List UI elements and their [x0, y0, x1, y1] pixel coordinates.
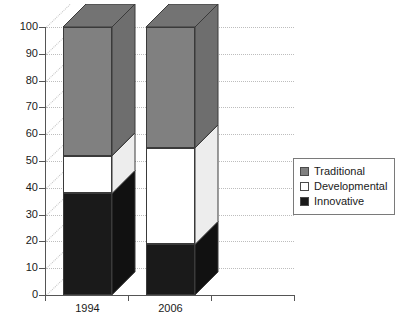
y-tick-mark [39, 54, 45, 55]
y-axis-line [45, 27, 46, 295]
y-tick-label-wrap: 10 [0, 262, 38, 273]
y-tick-label-wrap: 20 [0, 235, 38, 246]
y-tick-mark [39, 268, 45, 269]
y-tick-mark [39, 27, 45, 28]
x-tick-label-1994: 1994 [53, 303, 123, 314]
bar-segment-2006-traditional [146, 27, 195, 148]
y-tick-label: 40 [4, 182, 38, 193]
x-tick-mark [294, 295, 295, 301]
y-tick-mark [39, 81, 45, 82]
legend: Traditional Developmental Innovative [293, 158, 395, 215]
legend-label-innovative: Innovative [314, 196, 364, 207]
x-tick-label-2006: 2006 [136, 303, 206, 314]
bar-segment-2006-developmental [146, 148, 195, 244]
y-tick-label-wrap: 0 [0, 289, 38, 300]
bar-segment-1994-traditional [63, 27, 112, 156]
y-tick-mark [39, 161, 45, 162]
chart-screenshot: 0102030405060708090100 19942006 Traditio… [0, 0, 395, 335]
y-tick-label-wrap: 30 [0, 209, 38, 220]
legend-swatch-traditional [300, 167, 309, 176]
bar-segment-1994-innovative [63, 193, 112, 295]
y-tick-mark [39, 215, 45, 216]
y-tick-label: 20 [4, 235, 38, 246]
legend-label-traditional: Traditional [314, 166, 365, 177]
y-tick-mark [39, 107, 45, 108]
legend-label-developmental: Developmental [314, 181, 387, 192]
bar-segment-1994-developmental [63, 156, 112, 194]
y-tick-mark [39, 188, 45, 189]
legend-item-traditional: Traditional [300, 164, 387, 179]
y-tick-label: 90 [4, 48, 38, 59]
y-tick-label-wrap: 100 [0, 21, 38, 32]
y-tick-label: 80 [4, 75, 38, 86]
y-tick-label: 10 [4, 262, 38, 273]
x-tick-mark [128, 295, 129, 301]
y-tick-label-wrap: 40 [0, 182, 38, 193]
plot-area: 0102030405060708090100 19942006 Traditio… [0, 0, 395, 335]
y-tick-mark [39, 134, 45, 135]
y-tick-label-wrap: 60 [0, 128, 38, 139]
y-tick-label: 0 [4, 289, 38, 300]
y-tick-label: 30 [4, 209, 38, 220]
y-tick-mark [39, 241, 45, 242]
x-axis-line [45, 295, 294, 296]
y-tick-label: 70 [4, 101, 38, 112]
y-tick-label-wrap: 70 [0, 101, 38, 112]
legend-swatch-innovative [300, 197, 309, 206]
y-tick-label: 100 [4, 21, 38, 32]
x-tick-mark [45, 295, 46, 301]
y-tick-label: 50 [4, 155, 38, 166]
bar-segment-2006-innovative [146, 244, 195, 295]
bar-segment-top-2006-traditional [146, 4, 220, 29]
bar-segment-top-1994-traditional [63, 4, 137, 29]
y-tick-label: 60 [4, 128, 38, 139]
y-tick-label-wrap: 50 [0, 155, 38, 166]
y-tick-label-wrap: 80 [0, 75, 38, 86]
y-tick-label-wrap: 90 [0, 48, 38, 59]
legend-item-innovative: Innovative [300, 194, 387, 209]
x-tick-mark [211, 295, 212, 301]
legend-swatch-developmental [300, 182, 309, 191]
legend-item-developmental: Developmental [300, 179, 387, 194]
